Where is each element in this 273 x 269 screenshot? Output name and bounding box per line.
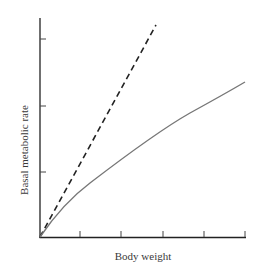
allometric-series-curve	[40, 82, 245, 237]
chart: Body weight Basal metabolic rate	[0, 0, 273, 269]
x-ticks	[80, 231, 245, 237]
y-ticks	[40, 39, 46, 172]
x-axis-label: Body weight	[115, 250, 172, 262]
y-axis-label: Basal metabolic rate	[18, 105, 30, 195]
linear-series-line	[40, 25, 156, 237]
